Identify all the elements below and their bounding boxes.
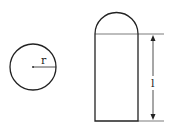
arrow-down-icon (151, 114, 156, 120)
radius-label: r (41, 54, 47, 67)
length-dimension: l (151, 35, 156, 120)
circle-figure: r (10, 44, 56, 90)
capsule-outline (95, 13, 138, 122)
arrow-up-icon (151, 35, 156, 41)
diagram-canvas: r l (0, 0, 172, 132)
capsule-figure (95, 13, 164, 122)
length-label: l (151, 77, 155, 90)
